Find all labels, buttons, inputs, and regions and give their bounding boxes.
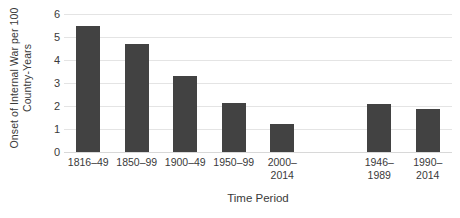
bar[interactable] xyxy=(125,44,149,152)
x-axis-tick-label xyxy=(307,156,356,186)
bar-slot xyxy=(210,14,259,152)
y-axis-tick-label: 3 xyxy=(44,78,60,89)
x-axis-tick-label: 1946– 1989 xyxy=(355,156,404,186)
bar[interactable] xyxy=(76,26,100,153)
bar[interactable] xyxy=(367,104,391,152)
y-axis-tick-label: 0 xyxy=(44,147,60,158)
y-axis-tick-label: 4 xyxy=(44,55,60,66)
gridline xyxy=(64,152,452,153)
bar[interactable] xyxy=(416,109,440,152)
y-axis-tick-label: 5 xyxy=(44,32,60,43)
bar-slot xyxy=(161,14,210,152)
x-axis-tick-label: 1850–99 xyxy=(113,156,162,186)
x-axis-tick-labels: 1816–491850–991900–491950–992000– 201419… xyxy=(64,156,452,186)
y-axis-tick-label: 6 xyxy=(44,9,60,20)
bar-chart: Onset of Internal War per 100 Country-Ye… xyxy=(0,0,460,218)
x-axis-tick-label: 1990– 2014 xyxy=(404,156,453,186)
bars-group xyxy=(64,14,452,152)
bar[interactable] xyxy=(173,76,197,152)
bar-slot xyxy=(307,14,356,152)
x-axis-tick-label: 1816–49 xyxy=(64,156,113,186)
x-axis-title: Time Period xyxy=(64,192,452,204)
bar[interactable] xyxy=(222,103,246,152)
bar-slot xyxy=(113,14,162,152)
bar[interactable] xyxy=(270,124,294,152)
bar-slot xyxy=(258,14,307,152)
y-axis-tick-label: 1 xyxy=(44,124,60,135)
plot-area xyxy=(64,14,452,152)
x-axis-tick-label: 1950–99 xyxy=(210,156,259,186)
y-axis-tick-label: 2 xyxy=(44,101,60,112)
y-axis-tick-labels: 0123456 xyxy=(44,9,60,153)
y-axis-title: Onset of Internal War per 100 Country-Ye… xyxy=(1,3,41,153)
bar-slot xyxy=(64,14,113,152)
x-axis-tick-label: 2000– 2014 xyxy=(258,156,307,186)
bar-slot xyxy=(355,14,404,152)
bar-slot xyxy=(404,14,453,152)
x-axis-tick-label: 1900–49 xyxy=(161,156,210,186)
